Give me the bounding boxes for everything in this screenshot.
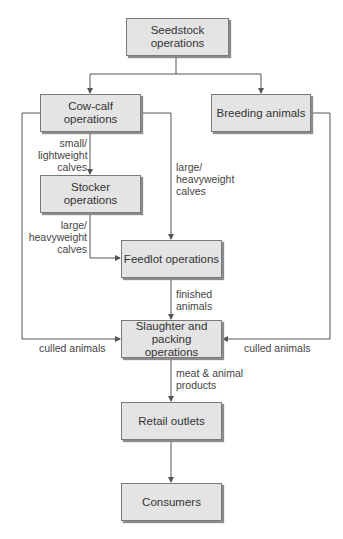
label-line: meat & animal	[176, 367, 243, 379]
node-label: Retail outlets	[138, 415, 204, 428]
node-cow-calf-operations: Cow-calf operations	[40, 94, 141, 132]
node-label: Slaughter and packing operations	[124, 320, 219, 359]
label-line: lightweight	[38, 149, 87, 161]
label-line: finished	[176, 288, 212, 300]
node-seedstock-operations: Seedstock operations	[126, 18, 229, 56]
node-label: Seedstock operations	[141, 24, 214, 50]
label-line: heavyweight	[24, 231, 87, 243]
edge-label-large-calves-cowcalf: large/ heavyweight calves	[176, 161, 234, 197]
node-consumers: Consumers	[121, 483, 222, 521]
node-breeding-animals: Breeding animals	[211, 94, 311, 132]
edge-label-small-calves: small/ lightweight calves	[38, 137, 87, 173]
label-line: large/	[24, 219, 87, 231]
edge-label-finished-animals: finished animals	[176, 288, 212, 312]
node-label: Consumers	[142, 496, 201, 509]
edge-label-culled-left: culled animals	[39, 342, 106, 354]
node-label: Feedlot operations	[124, 253, 219, 266]
node-label: Cow-calf operations	[57, 100, 124, 126]
label-line: animals	[176, 300, 212, 312]
edge-label-large-calves-stocker: large/ heavyweight calves	[24, 219, 87, 255]
edge-label-meat-products: meat & animal products	[176, 367, 243, 391]
node-label: Breeding animals	[217, 107, 306, 120]
node-retail-outlets: Retail outlets	[121, 402, 222, 440]
label-line: products	[176, 379, 243, 391]
edge-label-culled-right: culled animals	[244, 342, 311, 354]
node-slaughter-packing-operations: Slaughter and packing operations	[121, 320, 222, 358]
label-line: heavyweight	[176, 173, 234, 185]
node-feedlot-operations: Feedlot operations	[121, 240, 222, 278]
node-stocker-operations: Stocker operations	[40, 175, 141, 213]
node-label: Stocker operations	[55, 181, 126, 207]
label-line: large/	[176, 161, 234, 173]
label-line: calves	[24, 243, 87, 255]
label-line: calves	[176, 185, 234, 197]
label-line: calves	[38, 161, 87, 173]
label-line: small/	[38, 137, 87, 149]
